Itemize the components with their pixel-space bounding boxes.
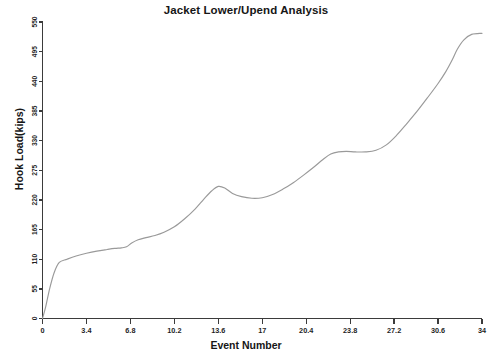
y-tick-label: 0	[31, 316, 38, 320]
y-tick-label: 165	[31, 224, 38, 235]
chart-container: Jacket Lower/Upend Analysis Hook Load(ki…	[0, 0, 492, 364]
x-tick-label: 10.2	[167, 326, 181, 335]
y-tick-label: 330	[31, 135, 38, 146]
y-tick-label: 55	[31, 285, 38, 293]
y-tick-label: 110	[31, 254, 38, 265]
plot-area: 055110165220275330385440495550 03.46.810…	[0, 0, 492, 364]
x-axis-ticks: 03.46.810.213.61720.423.827.230.634	[40, 319, 487, 335]
data-series-line	[43, 33, 483, 318]
x-tick-label: 23.8	[343, 326, 357, 335]
y-tick-label: 550	[31, 16, 38, 27]
x-tick-label: 13.6	[211, 326, 225, 335]
y-tick-label: 275	[31, 164, 38, 175]
x-tick-label: 0	[40, 326, 44, 335]
y-axis-ticks: 055110165220275330385440495550	[31, 16, 43, 320]
y-tick-label: 220	[31, 194, 38, 205]
x-tick-label: 17	[258, 326, 266, 335]
y-tick-label: 440	[31, 75, 38, 86]
x-tick-label: 20.4	[299, 326, 314, 335]
y-tick-label: 495	[31, 46, 38, 57]
x-tick-label: 30.6	[431, 326, 445, 335]
x-tick-label: 3.4	[81, 326, 92, 335]
x-tick-label: 27.2	[387, 326, 401, 335]
x-tick-label: 6.8	[125, 326, 135, 335]
x-tick-label: 34	[478, 326, 487, 335]
y-tick-label: 385	[31, 105, 38, 116]
